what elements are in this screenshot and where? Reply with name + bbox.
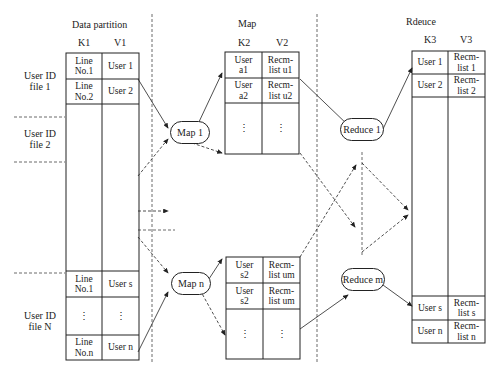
reduce-k-1: User 1 bbox=[412, 51, 448, 74]
mapreduce-diagram: Data partition Map Rdeuce K1 V1 K2 V2 K3… bbox=[0, 0, 500, 372]
partition-v-2: User 2 bbox=[102, 79, 139, 104]
map-top-k-1: Usera1 bbox=[225, 52, 262, 78]
section-title-data-partition: Data partition bbox=[72, 19, 127, 30]
map-1-node: Map 1 bbox=[170, 121, 210, 144]
partition-v-n: User n bbox=[102, 335, 139, 360]
map-bottom-k-ellipsis: ⋮ bbox=[226, 309, 263, 359]
reduce-k-2: User 2 bbox=[412, 74, 448, 97]
map-top-v-1: Recm-list u1 bbox=[262, 52, 299, 78]
reduce-v-s: Recm-list s bbox=[448, 296, 485, 320]
map-bottom-v-2: Recm-list um bbox=[263, 283, 300, 309]
partition-k-n: LineNo.n bbox=[66, 335, 102, 360]
file-label-n: User IDfile N bbox=[24, 310, 56, 332]
reduce-k-n: User n bbox=[412, 320, 448, 343]
partition-k-2: LineNo.2 bbox=[66, 79, 102, 104]
map-top-k-2: Usera2 bbox=[225, 78, 262, 103]
header-v2: V2 bbox=[276, 37, 288, 48]
partition-v-ellipsis: ⋮ bbox=[102, 297, 139, 335]
map-top-v-2: Recm-list u2 bbox=[262, 78, 299, 103]
map-top-k-ellipsis: ⋮ bbox=[225, 103, 262, 154]
partition-v-s: User s bbox=[102, 271, 139, 297]
header-v1: V1 bbox=[114, 37, 126, 48]
map-n-node: Map n bbox=[171, 272, 211, 295]
partition-v-1: User 1 bbox=[102, 53, 139, 79]
file-label-1: User IDfile 1 bbox=[24, 70, 56, 92]
map-bottom-v-1: Recm-list um bbox=[263, 257, 300, 283]
reduce-v-2: Recm-list 2 bbox=[448, 74, 485, 97]
reduce-1-node: Reduce 1 bbox=[340, 118, 384, 141]
header-k2: K2 bbox=[238, 37, 250, 48]
partition-k-s: LineNo.1 bbox=[66, 271, 102, 297]
header-k3: K3 bbox=[424, 34, 436, 45]
map-top-v-ellipsis: ⋮ bbox=[262, 103, 299, 154]
section-title-reduce: Rdeuce bbox=[406, 16, 436, 27]
reduce-v-1: Recm-list 1 bbox=[448, 51, 485, 74]
header-k1: K1 bbox=[78, 37, 90, 48]
partition-k-1: LineNo.1 bbox=[66, 53, 102, 79]
reduce-k-s: User s bbox=[412, 296, 448, 320]
header-v3: V3 bbox=[460, 34, 472, 45]
reduce-m-node: Reduce m bbox=[341, 268, 385, 291]
map-bottom-v-ellipsis: ⋮ bbox=[263, 309, 300, 359]
reduce-v-n: Recm-list n bbox=[448, 320, 485, 343]
file-label-2: User IDfile 2 bbox=[24, 128, 56, 150]
section-title-map: Map bbox=[238, 18, 256, 29]
partition-k-ellipsis: ⋮ bbox=[66, 297, 102, 335]
map-bottom-k-1: Users2 bbox=[226, 257, 263, 283]
map-bottom-k-2: Users2 bbox=[226, 283, 263, 309]
